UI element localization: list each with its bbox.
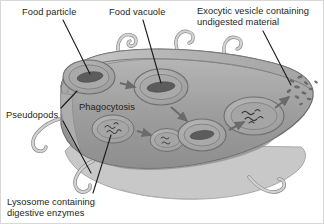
phagocytosis-diagram: Food particle Food vacuole Exocytic vesi… — [0, 0, 324, 224]
label-food-vacuole: Food vacuole — [109, 7, 165, 18]
lysosome — [92, 115, 134, 143]
label-food-particle: Food particle — [22, 7, 76, 18]
label-pseudopods: Pseudopods — [6, 110, 58, 121]
digestive-vacuole — [224, 97, 284, 135]
label-phagocytosis: Phagocytosis — [79, 102, 135, 113]
label-exocytic-vesicle: Exocytic vesicle containing undigested m… — [197, 6, 309, 27]
label-lysosome: Lysosome containing digestive enzymes — [7, 197, 95, 218]
forming-food-vacuole — [63, 60, 115, 94]
food-vacuole — [134, 69, 188, 105]
